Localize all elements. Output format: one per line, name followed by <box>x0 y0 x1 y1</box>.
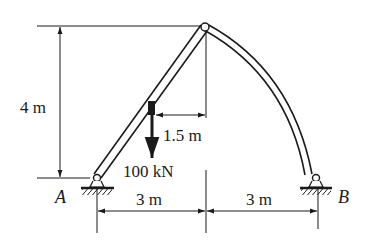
load-label: 100 kN <box>123 162 174 181</box>
support-b-label: B <box>338 187 349 207</box>
span-right-label: 3 m <box>246 190 272 209</box>
height-label: 4 m <box>20 98 46 117</box>
apex-hinge-icon <box>201 23 209 31</box>
curved-member-CB <box>204 24 312 175</box>
pin-support-b-icon <box>300 175 332 196</box>
load-offset-label: 1.5 m <box>163 126 202 145</box>
span-left-label: 3 m <box>136 190 162 209</box>
support-a-label: A <box>54 187 67 207</box>
three-hinged-arch-diagram: 4 m 100 kN 1.5 m A B 3 m 3 m <box>0 0 372 247</box>
